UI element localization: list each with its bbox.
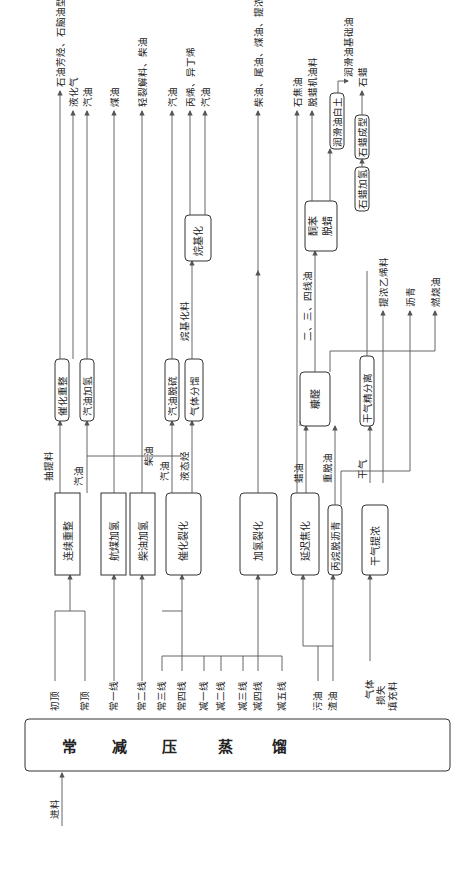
svg-text:干气精分离: 干气精分离 (362, 373, 373, 423)
svg-text:气体分馏: 气体分馏 (189, 376, 200, 416)
svg-text:柴油、尾油、煤油、提浓乙烯料: 柴油、尾油、煤油、提浓乙烯料 (253, 0, 264, 107)
product-labels: 石油芳烃、石脑油型、碳六馏分 液化气 汽油 煤油 轻裂解料、柴油 汽油 丙烯、异… (55, 0, 441, 307)
svg-text:常四线: 常四线 (176, 681, 187, 711)
svg-text:催化裂化: 催化裂化 (177, 521, 189, 561)
svg-text:丙烷脱沥青: 丙烷脱沥青 (330, 521, 341, 571)
svg-text:石焦油: 石焦油 (292, 77, 303, 107)
svg-text:常三线: 常三线 (156, 681, 167, 711)
svg-text:常一线: 常一线 (108, 681, 119, 711)
svg-text:常: 常 (62, 738, 77, 756)
svg-text:脱蜡: 脱蜡 (321, 216, 333, 236)
svg-text:抽提料: 抽提料 (43, 451, 54, 481)
svg-text:蜡油: 蜡油 (293, 463, 304, 483)
svg-text:糠醛: 糠醛 (309, 389, 321, 409)
svg-text:常顶: 常顶 (79, 691, 90, 711)
svg-text:汽油: 汽油 (159, 461, 170, 481)
stream-labels: 初顶 常顶 常一线 常二线 常三线 常四线 减一线 减二线 减三线 减四线 减五… (49, 679, 398, 711)
tertiary-units: 烷基化 酮苯 脱蜡 石蜡加氢 石蜡成型 润滑油白土 (185, 93, 369, 261)
primary-units: 连续重整 航煤加氢 柴油加氢 催化裂化 加氢裂化 延迟焦化 丙烷脱沥青 干气提浓 (55, 493, 388, 575)
svg-text:煤油: 煤油 (109, 87, 120, 107)
svg-text:液态烃: 液态烃 (179, 451, 190, 481)
svg-text:气体: 气体 (364, 679, 375, 699)
svg-text:填充料: 填充料 (387, 681, 398, 711)
svg-text:减五线: 减五线 (276, 681, 287, 711)
svg-text:减一线: 减一线 (198, 681, 209, 711)
svg-text:减: 减 (112, 738, 127, 756)
tertiary-lines: 烷基化料 二、三、四线油 (179, 251, 435, 372)
svg-text:石蜡加氢: 石蜡加氢 (357, 169, 368, 209)
svg-text:柴油加氢: 柴油加氢 (137, 521, 149, 561)
svg-text:加氢裂化: 加氢裂化 (252, 521, 264, 561)
atmospheric-vacuum-distillation-box (25, 719, 450, 771)
svg-text:烷基化: 烷基化 (192, 226, 204, 256)
svg-text:石蜡成型: 石蜡成型 (357, 117, 368, 157)
svg-text:轻裂解料、柴油: 轻裂解料、柴油 (137, 37, 148, 107)
svg-text:损失: 损失 (375, 685, 386, 705)
svg-text:馏: 馏 (271, 738, 287, 756)
svg-text:汽油加氢: 汽油加氢 (82, 376, 93, 416)
svg-text:提浓乙烯料: 提浓乙烯料 (378, 257, 389, 307)
svg-text:汽油: 汽油 (82, 87, 93, 107)
svg-text:石油芳烃、石脑油型、碳六馏分: 石油芳烃、石脑油型、碳六馏分 (55, 0, 66, 87)
svg-text:蒸: 蒸 (218, 738, 233, 756)
svg-text:燃烧油: 燃烧油 (430, 277, 441, 307)
secondary-units: 催化重整 汽油加氢 汽油脱硫 气体分馏 糠醛 干气精分离 (55, 356, 374, 426)
svg-text:渣油: 渣油 (327, 691, 338, 711)
svg-text:延迟焦化: 延迟焦化 (299, 521, 311, 561)
svg-text:润滑油基础油: 润滑油基础油 (343, 17, 354, 77)
svg-text:减二线: 减二线 (215, 681, 226, 711)
svg-text:减三线: 减三线 (237, 681, 248, 711)
svg-text:汽油: 汽油 (200, 87, 211, 107)
svg-text:液化气: 液化气 (68, 77, 79, 107)
svg-text:烷基化料: 烷基化料 (179, 301, 190, 341)
svg-text:丙烯、异丁烯: 丙烯、异丁烯 (185, 47, 196, 107)
svg-text:干气提浓: 干气提浓 (369, 526, 381, 566)
svg-text:汽油: 汽油 (73, 466, 84, 486)
svg-text:润滑油白土: 润滑油白土 (332, 97, 343, 147)
svg-text:二、三、四线油: 二、三、四线油 (302, 271, 313, 341)
svg-text:柴油: 柴油 (143, 446, 154, 466)
svg-text:连续重整: 连续重整 (62, 521, 74, 561)
stream-lines (55, 575, 370, 681)
svg-text:航煤加氢: 航煤加氢 (108, 521, 120, 561)
svg-text:初顶: 初顶 (49, 691, 60, 711)
svg-text:汽油: 汽油 (167, 87, 178, 107)
svg-text:干气: 干气 (357, 459, 368, 479)
svg-text:汽油脱硫: 汽油脱硫 (167, 376, 178, 416)
svg-text:石蜡: 石蜡 (357, 67, 368, 87)
feed-label: 进料 (49, 799, 60, 819)
refinery-flow-diagram: 常 减 压 蒸 馏 进料 初顶 常顶 常一线 常二线 常三线 常四线 减一线 减… (0, 0, 460, 871)
svg-text:常二线: 常二线 (136, 681, 147, 711)
svg-text:脱蜡机油料: 脱蜡机油料 (307, 57, 318, 107)
svg-text:减四线: 减四线 (252, 681, 263, 711)
svg-text:污油: 污油 (312, 691, 323, 711)
svg-text:酮苯: 酮苯 (307, 216, 319, 236)
svg-text:重脱油: 重脱油 (322, 453, 333, 483)
svg-text:催化重整: 催化重整 (57, 376, 68, 416)
svg-text:压: 压 (162, 738, 177, 756)
svg-text:沥青: 沥青 (405, 287, 416, 307)
